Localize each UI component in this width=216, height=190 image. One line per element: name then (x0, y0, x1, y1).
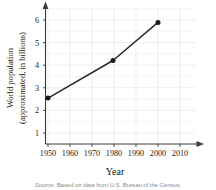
y-tick-label: 1 (35, 129, 39, 138)
x-axis-tick-labels: 1950 1960 1970 1980 1990 2000 2010 (40, 149, 188, 158)
population-line-chart-figure: 1 2 3 4 5 6 1950 1960 1970 1980 1990 200… (0, 0, 216, 190)
x-tick-label: 1990 (128, 149, 144, 158)
data-series-world-population (46, 20, 161, 101)
x-tick-label: 1960 (62, 149, 78, 158)
data-point-marker (46, 96, 51, 101)
y-axis-title: World population (approximated, in billi… (5, 32, 27, 124)
data-point-marker (156, 20, 161, 25)
y-tick-label: 5 (35, 39, 39, 48)
y-tick-label: 2 (35, 106, 39, 115)
y-axis-title-line1: World population (5, 47, 15, 108)
y-axis-tick-labels: 1 2 3 4 5 6 (35, 16, 39, 138)
x-axis-title: Year (106, 166, 125, 177)
y-tick-label: 3 (35, 84, 39, 93)
source-note: Source: Based on data from U.S. Bureau o… (0, 181, 216, 188)
chart-gridlines (46, 8, 197, 144)
series-line (48, 22, 158, 98)
x-tick-label: 1980 (106, 149, 122, 158)
x-tick-label: 1970 (84, 149, 100, 158)
x-tick-label: 2000 (150, 149, 166, 158)
y-axis-arrowhead (43, 2, 49, 10)
y-tick-label: 4 (35, 61, 39, 70)
x-tick-label: 1950 (40, 149, 56, 158)
x-tick-label: 2010 (172, 149, 188, 158)
data-point-marker (111, 58, 116, 63)
y-axis-title-line2: (approximated, in billions) (17, 32, 27, 124)
y-tick-label: 6 (35, 16, 39, 25)
chart-canvas: 1 2 3 4 5 6 1950 1960 1970 1980 1990 200… (0, 0, 216, 190)
x-axis-arrowhead (197, 141, 205, 147)
